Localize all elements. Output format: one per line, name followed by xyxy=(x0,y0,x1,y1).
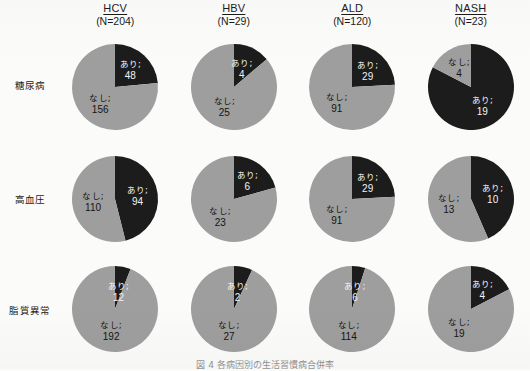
pie-cell: あり;4なし;19 xyxy=(412,254,530,364)
column-header-nash: NASH(N=23) xyxy=(412,0,530,32)
column-group-name: ALD xyxy=(341,2,363,14)
pie-chart[interactable]: あり;6なし;23 xyxy=(186,151,282,247)
pie-cell: あり;4なし;25 xyxy=(175,32,294,142)
pie-slices xyxy=(423,261,519,357)
pie-chart[interactable]: あり;6なし;114 xyxy=(304,261,400,357)
pie-slice-yes[interactable] xyxy=(115,44,158,87)
pie-slices xyxy=(67,151,163,247)
pie-cell: あり;6なし;23 xyxy=(175,144,294,254)
pie-cell: あり;48なし;156 xyxy=(56,32,175,142)
column-header-row: HCV(N=204)HBV(N=29)ALD(N=120)NASH(N=23) xyxy=(56,0,530,32)
column-header-ald: ALD(N=120) xyxy=(293,0,412,32)
pie-slices xyxy=(186,261,282,357)
pie-slices xyxy=(423,151,519,247)
pie-cell: あり;29なし;91 xyxy=(293,32,412,142)
pie-slices xyxy=(304,39,400,135)
pie-chart[interactable]: あり;29なし;91 xyxy=(304,151,400,247)
pie-cell: あり;12なし;192 xyxy=(56,254,175,364)
column-sample-size: (N=204) xyxy=(96,15,134,28)
column-group-name: HBV xyxy=(222,2,245,14)
pie-slices xyxy=(67,261,163,357)
pie-chart[interactable]: あり;19なし;4 xyxy=(423,39,519,135)
pie-chart[interactable]: あり;12なし;192 xyxy=(67,261,163,357)
pie-slices xyxy=(186,151,282,247)
pie-cell: あり;10なし;13 xyxy=(412,144,530,254)
pie-cell: あり;19なし;4 xyxy=(412,32,530,142)
pie-row-1: あり;94なし;110あり;6なし;23あり;29なし;91あり;10なし;13 xyxy=(56,144,530,254)
pie-cell: あり;6なし;114 xyxy=(293,254,412,364)
pie-chart[interactable]: あり;29なし;91 xyxy=(304,39,400,135)
column-sample-size: (N=120) xyxy=(333,15,371,28)
column-group-name: NASH xyxy=(455,2,486,14)
pie-slice-yes[interactable] xyxy=(352,44,395,87)
figure-caption: 図 4 各病因別の生活習慣病合併率 xyxy=(0,360,530,371)
pie-slices xyxy=(423,39,519,135)
column-sample-size: (N=29) xyxy=(218,15,250,28)
pie-cell: あり;29なし;91 xyxy=(293,144,412,254)
pie-chart[interactable]: あり;4なし;25 xyxy=(186,39,282,135)
pie-chart[interactable]: あり;10なし;13 xyxy=(423,151,519,247)
pie-slices xyxy=(304,151,400,247)
pie-row-0: あり;48なし;156あり;4なし;25あり;29なし;91あり;19なし;4 xyxy=(56,32,530,142)
pie-chart[interactable]: あり;2なし;27 xyxy=(186,261,282,357)
row-label-1: 高血圧 xyxy=(4,194,56,205)
pie-cell: あり;2なし;27 xyxy=(175,254,294,364)
pie-grid: あり;48なし;156あり;4なし;25あり;29なし;91あり;19なし;4あ… xyxy=(56,32,530,362)
column-sample-size: (N=23) xyxy=(455,15,487,28)
column-group-name: HCV xyxy=(103,2,127,14)
pie-slice-yes[interactable] xyxy=(352,156,395,199)
column-header-hcv: HCV(N=204) xyxy=(56,0,175,32)
pie-cell: あり;94なし;110 xyxy=(56,144,175,254)
pie-slices xyxy=(186,39,282,135)
pie-chart[interactable]: あり;4なし;19 xyxy=(423,261,519,357)
column-header-hbv: HBV(N=29) xyxy=(175,0,294,32)
pie-chart[interactable]: あり;94なし;110 xyxy=(67,151,163,247)
row-label-2: 脂質異常 xyxy=(4,305,56,316)
pie-chart[interactable]: あり;48なし;156 xyxy=(67,39,163,135)
pie-row-2: あり;12なし;192あり;2なし;27あり;6なし;114あり;4なし;19 xyxy=(56,254,530,364)
pie-slices xyxy=(304,261,400,357)
row-label-0: 糖尿病 xyxy=(4,80,56,91)
pie-slices xyxy=(67,39,163,135)
